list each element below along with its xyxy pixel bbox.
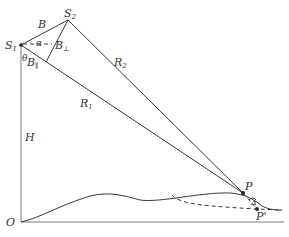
label-baseline: B xyxy=(37,18,46,31)
label-height: H xyxy=(24,131,35,144)
range-r2 xyxy=(68,20,243,193)
point-s1 xyxy=(19,43,23,47)
insar-geometry-diagram: S1 S2 B α B⊥ θ B∥ R1 R2 H O P P' Δ xyxy=(0,0,289,237)
label-s2: S2 xyxy=(64,7,77,21)
label-alpha: α xyxy=(36,38,42,48)
label-delta: Δ xyxy=(250,198,257,207)
label-r1: R1 xyxy=(79,97,93,111)
label-p: P xyxy=(244,180,253,193)
range-r1 xyxy=(21,45,243,193)
label-b-par: B∥ xyxy=(26,56,38,70)
label-p-prime: P' xyxy=(255,210,266,223)
label-b-perp: B⊥ xyxy=(54,39,70,53)
label-r2: R2 xyxy=(113,56,127,70)
label-origin: O xyxy=(6,216,15,229)
label-s1: S1 xyxy=(5,39,17,53)
terrain-surface xyxy=(21,193,282,222)
